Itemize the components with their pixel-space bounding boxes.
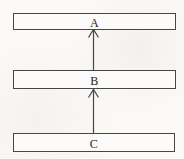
- node-label-c: C: [90, 137, 99, 149]
- node-box-a: A: [13, 13, 176, 30]
- node-box-c: C: [13, 133, 175, 152]
- node-box-b: B: [13, 70, 176, 89]
- arrow-b-to-a-icon: [89, 30, 99, 71]
- diagram-canvas: A B C: [0, 0, 184, 159]
- node-label-b: B: [90, 74, 99, 86]
- node-label-a: A: [90, 16, 99, 28]
- arrow-c-to-b-icon: [89, 90, 99, 134]
